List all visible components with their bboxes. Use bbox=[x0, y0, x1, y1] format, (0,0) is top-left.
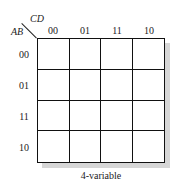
row-label: 01 bbox=[14, 81, 34, 91]
kmap-cell bbox=[70, 131, 102, 162]
col-label: 01 bbox=[69, 26, 101, 36]
diagonal-divider bbox=[21, 23, 37, 39]
kmap-cell bbox=[101, 70, 133, 101]
col-label: 00 bbox=[37, 26, 69, 36]
col-label: 10 bbox=[133, 26, 165, 36]
kmap-cell bbox=[70, 101, 102, 132]
row-label: 10 bbox=[14, 143, 34, 153]
row-label: 00 bbox=[14, 50, 34, 60]
kmap-cell bbox=[133, 70, 165, 101]
kmap-cell bbox=[133, 101, 165, 132]
kmap-cell bbox=[133, 39, 165, 70]
kmap-cell bbox=[133, 131, 165, 162]
col-label: 11 bbox=[101, 26, 133, 36]
kmap-caption: 4-variable bbox=[37, 170, 165, 181]
kmap-cell bbox=[101, 39, 133, 70]
kmap-cell bbox=[38, 70, 70, 101]
col-variable-label: CD bbox=[30, 14, 44, 24]
row-variable-label: AB bbox=[11, 27, 23, 37]
kmap-cell bbox=[38, 131, 70, 162]
kmap-cell bbox=[70, 70, 102, 101]
kmap-cell bbox=[70, 39, 102, 70]
kmap-cell bbox=[38, 39, 70, 70]
kmap-cell bbox=[38, 101, 70, 132]
kmap-cell bbox=[101, 101, 133, 132]
row-label: 11 bbox=[14, 112, 34, 122]
kmap-grid bbox=[37, 38, 165, 163]
kmap-cell bbox=[101, 131, 133, 162]
